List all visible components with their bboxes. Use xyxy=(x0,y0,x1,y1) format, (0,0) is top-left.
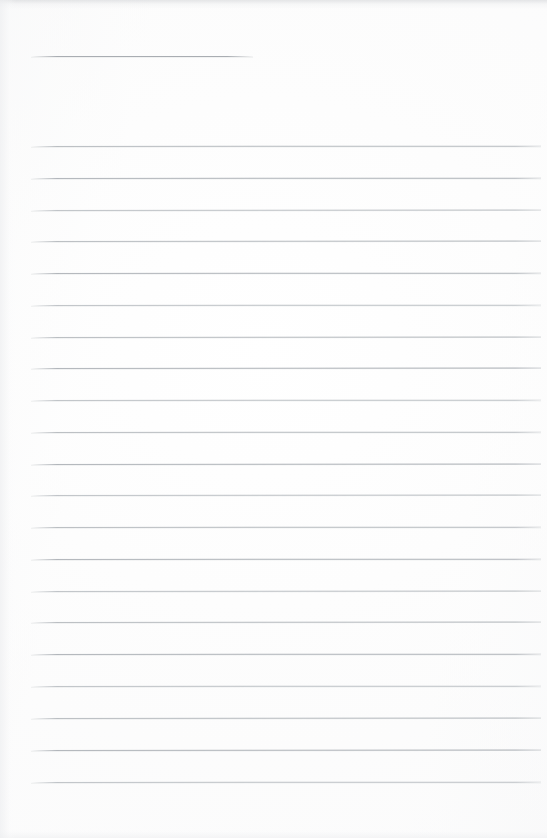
ruled-line xyxy=(31,464,541,465)
scan-edge-top xyxy=(0,0,547,9)
ruled-line xyxy=(31,559,541,560)
ruled-line xyxy=(31,241,541,242)
ruled-line xyxy=(31,591,541,592)
ruled-line xyxy=(31,654,541,655)
ruled-line xyxy=(31,178,541,179)
ruled-line xyxy=(31,146,541,147)
ruled-line xyxy=(31,782,541,783)
scanned-page xyxy=(0,0,547,838)
ruled-line xyxy=(31,305,541,306)
ruled-line xyxy=(31,368,541,369)
ruled-line xyxy=(31,750,541,751)
title-rule xyxy=(31,56,253,57)
ruled-line xyxy=(31,527,541,528)
scan-edge-left xyxy=(0,0,16,838)
scan-edge-bottom xyxy=(0,826,547,838)
ruled-line xyxy=(31,432,541,433)
ruled-line xyxy=(31,337,541,338)
ruled-line xyxy=(31,622,541,623)
paper-grain-texture xyxy=(0,0,547,838)
ruled-line xyxy=(31,495,541,496)
ruled-line xyxy=(31,718,541,719)
ruled-line xyxy=(31,273,541,274)
ruled-line xyxy=(31,400,541,401)
ruled-line xyxy=(31,686,541,687)
ruled-line xyxy=(31,210,541,211)
